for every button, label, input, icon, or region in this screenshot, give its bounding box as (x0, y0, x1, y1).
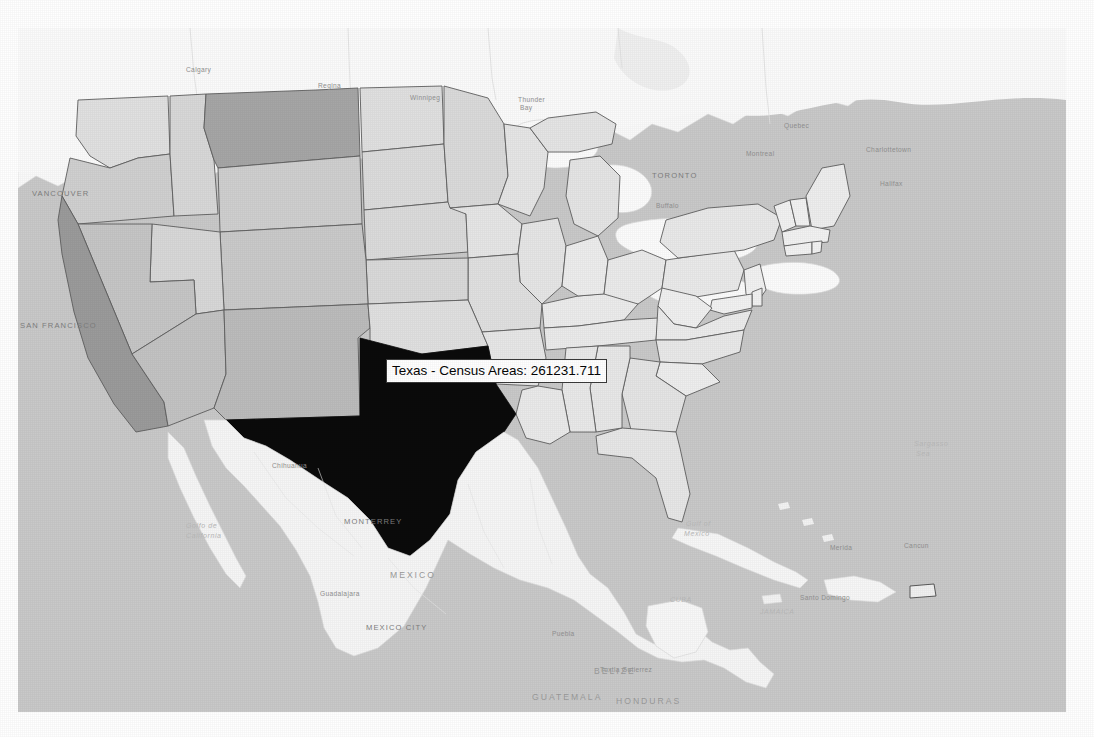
label-guadalajara: Guadalajara (320, 590, 360, 598)
island-jamaica (762, 594, 782, 604)
label-cancun: Cancun (904, 542, 929, 549)
label-buffalo: Buffalo (656, 202, 679, 209)
label-thunder-bay: Thunder (518, 96, 545, 103)
label-winnipeg: Winnipeg (410, 94, 440, 102)
label-charlottetown: Charlottetown (866, 146, 911, 153)
label-monterrey: MONTERREY (344, 517, 402, 526)
label-vancouver: VANCOUVER (32, 189, 89, 198)
label-montreal: Montreal (746, 150, 775, 157)
label-san-francisco: SAN FRANCISCO (20, 321, 97, 330)
state-new-mexico[interactable] (214, 304, 370, 420)
label-cuba: CUBA (670, 596, 692, 603)
label-guatemala: GUATEMALA (532, 692, 602, 702)
label-puebla: Puebla (552, 630, 575, 637)
label-sargasso: Sargasso (914, 440, 948, 448)
label-regina: Regina (318, 82, 341, 90)
label-quebec: Quebec (784, 122, 810, 130)
label-sargasso-2: Sea (916, 450, 930, 457)
map-tooltip: Texas - Census Areas: 261231.711 (386, 359, 607, 383)
label-gulf-of-mexico: Gulf of (686, 520, 711, 527)
label-honduras: HONDURAS (616, 696, 681, 706)
label-chihuahua: Chihuahua (272, 462, 307, 469)
state-south-dakota[interactable] (362, 144, 448, 210)
state-montana[interactable] (204, 88, 360, 168)
map-application: Calgary Regina Winnipeg Thunder Bay TORO… (0, 0, 1094, 737)
label-mexico-city: MEXICO CITY (366, 623, 427, 632)
label-golfo-california-2: California (186, 532, 222, 539)
label-calgary: Calgary (186, 66, 212, 74)
label-golfo-california: Golfo de (186, 522, 217, 529)
label-mexico: MEXICO (390, 570, 436, 580)
state-wyoming[interactable] (218, 156, 362, 232)
island-puerto-rico (910, 584, 936, 598)
label-halifax: Halifax (880, 180, 903, 187)
label-gulf-of-mexico-2: Mexico (684, 530, 710, 537)
label-santo-domingo: Santo Domingo (800, 594, 850, 602)
label-merida: Merida (830, 544, 852, 551)
label-jamaica: JAMAICA (759, 608, 795, 615)
label-belize: BELIZE (594, 666, 636, 676)
state-kansas[interactable] (366, 258, 468, 304)
label-thunder-bay-2: Bay (520, 104, 533, 112)
state-colorado[interactable] (220, 224, 368, 310)
state-indiana[interactable] (562, 236, 608, 296)
state-rhode-island[interactable] (812, 241, 822, 254)
state-nebraska[interactable] (364, 202, 468, 260)
label-toronto: TORONTO (652, 171, 697, 180)
